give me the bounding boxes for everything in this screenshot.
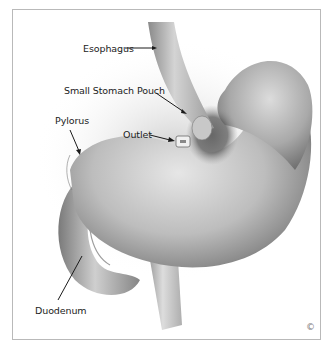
label-pylorus: Pylorus [55, 115, 89, 126]
label-small-stomach-pouch: Small Stomach Pouch [64, 85, 165, 96]
stomach-illustration [0, 0, 332, 350]
label-duodenum: Duodenum [35, 305, 87, 316]
label-outlet: Outlet [123, 129, 152, 140]
label-esophagus: Esophagus [83, 43, 134, 54]
copyright-mark: © [306, 322, 315, 332]
